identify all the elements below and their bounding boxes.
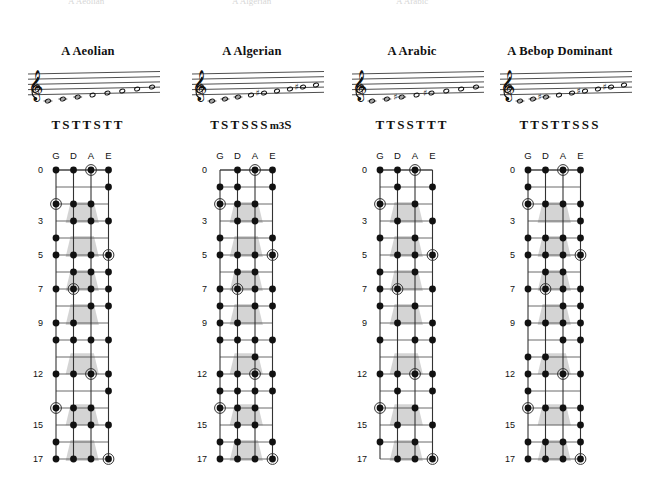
scale-note-dot[interactable] [252, 252, 259, 259]
scale-note-dot[interactable] [377, 337, 384, 344]
scale-note-dot[interactable] [577, 201, 584, 208]
scale-note-dot[interactable] [577, 235, 584, 242]
scale-note-dot[interactable] [429, 371, 436, 378]
scale-note-dot[interactable] [377, 269, 384, 276]
scale-note-dot[interactable] [217, 337, 224, 344]
scale-note-dot[interactable] [542, 439, 549, 446]
scale-note-dot[interactable] [88, 286, 95, 293]
scale-note-dot[interactable] [217, 371, 224, 378]
scale-note-dot[interactable] [394, 252, 401, 259]
scale-note-dot[interactable] [577, 439, 584, 446]
scale-note-dot[interactable] [252, 354, 259, 361]
scale-note-dot[interactable] [560, 201, 567, 208]
scale-note-dot[interactable] [542, 354, 549, 361]
scale-note-dot[interactable] [542, 405, 549, 412]
scale-note-dot[interactable] [269, 371, 276, 378]
scale-note-dot[interactable] [70, 252, 77, 259]
scale-note-dot[interactable] [252, 456, 259, 463]
scale-note-dot[interactable] [394, 320, 401, 327]
scale-note-dot[interactable] [269, 286, 276, 293]
scale-note-dot[interactable] [88, 201, 95, 208]
scale-note-dot[interactable] [560, 456, 567, 463]
scale-note-dot[interactable] [252, 286, 259, 293]
scale-note-dot[interactable] [525, 439, 532, 446]
scale-note-dot[interactable] [252, 269, 259, 276]
scale-note-dot[interactable] [394, 456, 401, 463]
fretboard-diagram[interactable]: GDAE03579121517 [172, 143, 332, 478]
scale-note-dot[interactable] [269, 337, 276, 344]
scale-note-dot[interactable] [577, 371, 584, 378]
scale-note-dot[interactable] [377, 303, 384, 310]
scale-note-dot[interactable] [412, 235, 419, 242]
scale-note-dot[interactable] [252, 422, 259, 429]
fretboard[interactable]: GDAE03579121517 [8, 143, 168, 478]
scale-note-dot[interactable] [542, 167, 549, 174]
scale-note-dot[interactable] [560, 286, 567, 293]
scale-note-dot[interactable] [394, 184, 401, 191]
scale-note-dot[interactable] [542, 371, 549, 378]
scale-note-dot[interactable] [394, 422, 401, 429]
scale-note-dot[interactable] [234, 218, 241, 225]
scale-note-dot[interactable] [542, 269, 549, 276]
scale-note-dot[interactable] [252, 388, 259, 395]
scale-note-dot[interactable] [217, 303, 224, 310]
scale-note-dot[interactable] [269, 439, 276, 446]
scale-note-dot[interactable] [234, 422, 241, 429]
scale-note-dot[interactable] [525, 320, 532, 327]
scale-note-dot[interactable] [234, 388, 241, 395]
scale-note-dot[interactable] [234, 252, 241, 259]
scale-note-dot[interactable] [234, 439, 241, 446]
scale-note-dot[interactable] [577, 286, 584, 293]
scale-note-dot[interactable] [377, 371, 384, 378]
scale-note-dot[interactable] [217, 456, 224, 463]
scale-note-dot[interactable] [53, 439, 60, 446]
scale-note-dot[interactable] [70, 218, 77, 225]
scale-note-dot[interactable] [560, 337, 567, 344]
scale-note-dot[interactable] [525, 184, 532, 191]
scale-note-dot[interactable] [412, 201, 419, 208]
scale-note-dot[interactable] [234, 405, 241, 412]
scale-note-dot[interactable] [70, 405, 77, 412]
scale-note-dot[interactable] [217, 439, 224, 446]
scale-note-dot[interactable] [525, 371, 532, 378]
scale-note-dot[interactable] [394, 167, 401, 174]
scale-note-dot[interactable] [234, 337, 241, 344]
scale-note-dot[interactable] [429, 422, 436, 429]
scale-note-dot[interactable] [70, 320, 77, 327]
scale-note-dot[interactable] [429, 184, 436, 191]
scale-note-dot[interactable] [105, 269, 112, 276]
scale-note-dot[interactable] [234, 201, 241, 208]
scale-note-dot[interactable] [105, 422, 112, 429]
scale-note-dot[interactable] [429, 388, 436, 395]
scale-note-dot[interactable] [377, 286, 384, 293]
scale-note-dot[interactable] [412, 439, 419, 446]
scale-note-dot[interactable] [88, 252, 95, 259]
scale-note-dot[interactable] [560, 252, 567, 259]
scale-note-dot[interactable] [577, 337, 584, 344]
scale-note-dot[interactable] [252, 218, 259, 225]
scale-note-dot[interactable] [269, 235, 276, 242]
scale-note-dot[interactable] [525, 388, 532, 395]
scale-note-dot[interactable] [542, 320, 549, 327]
scale-note-dot[interactable] [525, 354, 532, 361]
scale-note-dot[interactable] [234, 167, 241, 174]
scale-note-dot[interactable] [252, 405, 259, 412]
scale-note-dot[interactable] [53, 320, 60, 327]
scale-note-dot[interactable] [560, 303, 567, 310]
scale-note-dot[interactable] [377, 439, 384, 446]
scale-note-dot[interactable] [53, 456, 60, 463]
scale-note-dot[interactable] [394, 218, 401, 225]
scale-note-dot[interactable] [560, 320, 567, 327]
scale-note-dot[interactable] [217, 388, 224, 395]
scale-note-dot[interactable] [412, 405, 419, 412]
scale-note-dot[interactable] [269, 167, 276, 174]
scale-note-dot[interactable] [70, 167, 77, 174]
scale-note-dot[interactable] [234, 371, 241, 378]
scale-note-dot[interactable] [560, 269, 567, 276]
scale-note-dot[interactable] [394, 388, 401, 395]
scale-note-dot[interactable] [269, 388, 276, 395]
scale-note-dot[interactable] [429, 218, 436, 225]
scale-note-dot[interactable] [70, 422, 77, 429]
scale-note-dot[interactable] [412, 303, 419, 310]
fretboard[interactable]: GDAE03579121517 [332, 143, 492, 478]
